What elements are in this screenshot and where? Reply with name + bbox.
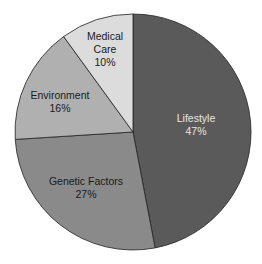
pie-chart: Lifestyle 47% Genetic Factors 27% Enviro… xyxy=(0,0,262,264)
pct-medical-care: 10% xyxy=(94,56,115,68)
pie-slices xyxy=(15,14,251,250)
pct-lifestyle: 47% xyxy=(185,125,206,137)
pct-genetic-factors: 27% xyxy=(75,188,96,200)
label-medical-care-line2: Care xyxy=(94,43,117,55)
label-medical-care-line1: Medical xyxy=(87,30,123,42)
label-lifestyle: Lifestyle xyxy=(177,112,216,124)
pct-environment: 16% xyxy=(49,102,70,114)
label-genetic-factors: Genetic Factors xyxy=(49,175,123,187)
label-environment: Environment xyxy=(31,89,90,101)
